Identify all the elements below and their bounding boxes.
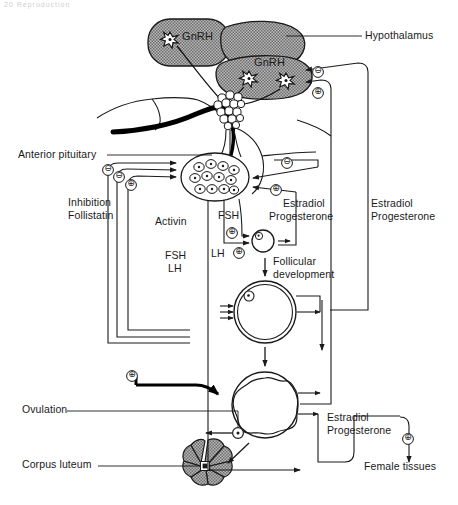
label-hypothalamus: Hypothalamus: [365, 30, 433, 42]
label-estradiol-mid: Estradiol: [283, 198, 325, 210]
label-development: development: [273, 269, 334, 281]
label-inhibition: Inhibition: [68, 197, 111, 209]
label-estradiol-bottom: Estradiol: [327, 412, 369, 424]
label-estradiol-right: Estradiol: [371, 198, 413, 210]
label-gnrh-lower: GnRH: [254, 57, 285, 69]
ovary-input-arrow-2: [220, 306, 233, 318]
label-anterior-pituitary: Anterior pituitary: [18, 149, 96, 161]
label-lh-left: LH: [168, 263, 182, 275]
sign-neg-pituitary-right: ⊖: [280, 156, 294, 168]
label-fsh-left: FSH: [165, 250, 186, 262]
label-corpus-luteum: Corpus luteum: [22, 459, 92, 471]
label-follistatin: Follistatin: [68, 210, 113, 222]
label-activin: Activin: [155, 216, 187, 228]
hypothalamic-feedback-lines: [300, 63, 368, 404]
label-ovulation: Ovulation: [22, 404, 67, 416]
small-follicle: [252, 230, 274, 252]
antral-follicle: [234, 281, 296, 343]
graafian-follicle: [232, 372, 298, 438]
lh-surge-arrow: [136, 377, 218, 394]
sign-neg-hypothalamus: ⊖: [311, 65, 325, 77]
label-gnrh-upper: GnRH: [182, 31, 213, 43]
sign-pos-female-tissues: ⊕: [401, 432, 415, 444]
sign-pos-pituitary-right: ⊕: [269, 183, 283, 195]
label-progesterone-right: Progesterone: [371, 211, 435, 223]
ovum: [233, 428, 244, 439]
sign-pos-hypothalamus: ⊕: [311, 86, 325, 98]
label-female-tissues: Female tissues: [364, 461, 436, 473]
sign-pos-fsh: ⊕: [225, 226, 239, 238]
label-fsh-mid: FSH: [218, 210, 239, 222]
figure-canvas: 20 Reproduction: [0, 0, 458, 505]
median-eminence-plexus: [214, 91, 245, 130]
sign-pos-pituitary: ⊕: [124, 178, 138, 190]
label-lh-mid: LH: [211, 248, 225, 260]
optic-chiasm: [113, 106, 233, 155]
label-follicular: Follicular: [273, 256, 316, 268]
sign-pos-ovary: ⊕: [125, 369, 139, 381]
hypothalamus-shape-upper: [148, 19, 230, 66]
label-progesterone-bottom: Progesterone: [327, 425, 391, 437]
label-progesterone-mid: Progesterone: [269, 211, 333, 223]
sign-pos-lh: ⊕: [232, 246, 246, 258]
